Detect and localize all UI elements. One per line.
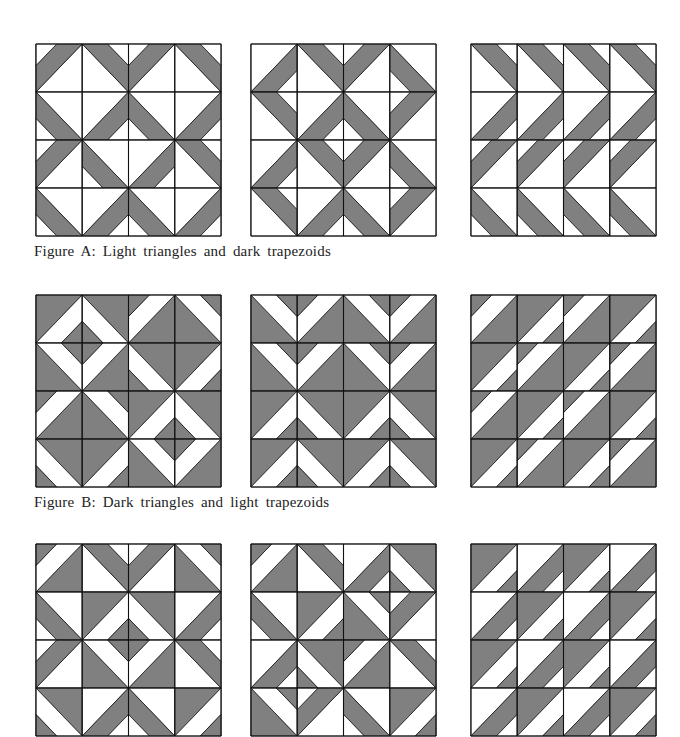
- tile: [297, 592, 343, 640]
- tile: [251, 592, 297, 640]
- tile: [129, 140, 175, 188]
- tile: [344, 188, 390, 236]
- tile: [251, 640, 297, 688]
- tile: [297, 439, 343, 487]
- tile: [82, 640, 128, 688]
- tile: [82, 544, 128, 592]
- tile: [390, 640, 436, 688]
- tile: [471, 439, 517, 487]
- tile: [344, 44, 390, 92]
- tile: [129, 544, 175, 592]
- figure-b-panel-1: [35, 294, 222, 488]
- tile: [344, 544, 390, 592]
- tile: [517, 688, 563, 736]
- tile: [564, 295, 610, 343]
- tile: [36, 92, 82, 140]
- tile: [471, 92, 517, 140]
- tile: [610, 439, 656, 487]
- tile: [564, 44, 610, 92]
- tile: [36, 688, 82, 736]
- tile: [82, 295, 128, 343]
- tile: [517, 44, 563, 92]
- tile: [517, 544, 563, 592]
- tile: [471, 688, 517, 736]
- tile: [390, 688, 436, 736]
- tile: [471, 391, 517, 439]
- tile: [564, 544, 610, 592]
- tile: [297, 140, 343, 188]
- tile: [129, 188, 175, 236]
- tile: [36, 295, 82, 343]
- tile: [82, 343, 128, 391]
- tile: [129, 439, 175, 487]
- figure-a-caption: Figure A: Light triangles and dark trape…: [34, 243, 331, 260]
- tile: [82, 140, 128, 188]
- tile: [297, 640, 343, 688]
- figure-c-panel-1: [35, 543, 222, 737]
- tile: [297, 343, 343, 391]
- tile: [251, 188, 297, 236]
- tile: [36, 188, 82, 236]
- figure-c-panel-2: [250, 543, 437, 737]
- tile: [344, 343, 390, 391]
- tile: [129, 391, 175, 439]
- tile: [297, 44, 343, 92]
- tile-grid: [35, 543, 222, 737]
- tile: [344, 640, 390, 688]
- tile: [129, 640, 175, 688]
- tile: [610, 140, 656, 188]
- tile: [175, 544, 221, 592]
- tile: [517, 92, 563, 140]
- tile: [344, 92, 390, 140]
- tile-grid: [250, 43, 437, 237]
- tile: [251, 391, 297, 439]
- tile: [564, 92, 610, 140]
- tile: [517, 640, 563, 688]
- tile: [251, 140, 297, 188]
- tile: [564, 391, 610, 439]
- tile: [390, 343, 436, 391]
- figure-a-panel-2: [250, 43, 437, 237]
- tile: [297, 544, 343, 592]
- figure-a-panel-1: [35, 43, 222, 237]
- tile: [471, 140, 517, 188]
- tile: [344, 592, 390, 640]
- tile: [610, 640, 656, 688]
- tile: [390, 391, 436, 439]
- tile: [175, 688, 221, 736]
- tile: [610, 92, 656, 140]
- tile: [82, 188, 128, 236]
- tile: [36, 343, 82, 391]
- figure-b-panel-2: [250, 294, 437, 488]
- tile: [297, 295, 343, 343]
- tile: [390, 592, 436, 640]
- tile: [390, 92, 436, 140]
- tile: [564, 439, 610, 487]
- tile: [251, 688, 297, 736]
- tile-grid: [470, 43, 657, 237]
- tile: [36, 439, 82, 487]
- tile: [175, 592, 221, 640]
- tile: [517, 439, 563, 487]
- tile: [297, 92, 343, 140]
- tile: [471, 188, 517, 236]
- tile: [564, 688, 610, 736]
- tile: [175, 439, 221, 487]
- tile: [251, 92, 297, 140]
- tile: [251, 544, 297, 592]
- tile-grid: [35, 43, 222, 237]
- tile: [82, 391, 128, 439]
- tile: [129, 92, 175, 140]
- tile: [610, 44, 656, 92]
- tile: [175, 391, 221, 439]
- tile: [297, 391, 343, 439]
- figure-a-panel-3: [470, 43, 657, 237]
- tile: [82, 688, 128, 736]
- tile: [564, 188, 610, 236]
- tile: [471, 640, 517, 688]
- tile: [129, 688, 175, 736]
- tile: [471, 44, 517, 92]
- tile: [251, 295, 297, 343]
- tile: [344, 140, 390, 188]
- tile: [610, 295, 656, 343]
